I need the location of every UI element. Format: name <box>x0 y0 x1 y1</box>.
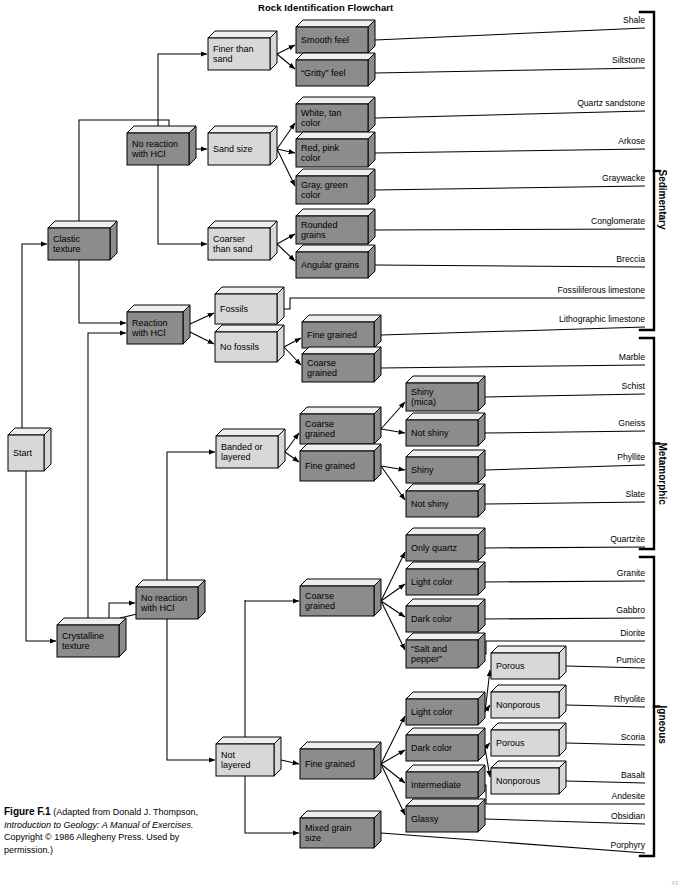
flow-box-light-color-ign-c[interactable] <box>406 562 485 595</box>
leader-line-siltstone <box>375 68 645 73</box>
figure-caption: Figure F.1 (Adapted from Donald J. Thomp… <box>4 806 252 856</box>
rock-label-shale: Shale <box>0 15 645 25</box>
flowchart-page: Rock Identification Flowchart StartClast… <box>0 0 681 887</box>
leader-line-fossiliferous-limestone <box>284 298 645 309</box>
leader-line-arkose <box>375 149 645 153</box>
leader-line-gneiss <box>485 431 645 433</box>
connector <box>381 429 405 433</box>
flowchart-canvas <box>0 0 681 887</box>
category-bracket-metamorphic <box>640 338 654 549</box>
flow-box-banded-layered[interactable] <box>216 429 285 468</box>
flow-box-start[interactable] <box>8 428 51 471</box>
flow-box-rounded-grains[interactable] <box>296 209 375 244</box>
caption-source-title: Introduction to Geology: A Manual of Exe… <box>4 820 193 830</box>
rock-label-arkose: Arkose <box>0 136 645 146</box>
rock-label-basalt: Basalt <box>0 770 645 780</box>
leader-line-quartz-sandstone <box>375 111 645 118</box>
leader-line-basalt <box>566 781 645 783</box>
rock-label-schist: Schist <box>0 381 645 391</box>
rock-label-siltstone: Siltstone <box>0 55 645 65</box>
rock-label-gneiss: Gneiss <box>0 418 645 428</box>
connector <box>381 466 405 470</box>
rock-label-pumice: Pumice <box>0 655 645 665</box>
figure-number: Figure F.1 <box>4 806 51 817</box>
connector <box>277 234 295 244</box>
rock-label-quartzite: Quartzite <box>0 534 645 544</box>
leader-line-scoria <box>566 743 645 745</box>
flow-box-fine-grained-met[interactable] <box>300 444 381 481</box>
leader-line-pumice <box>566 666 645 668</box>
rock-label-rhyolite: Rhyolite <box>0 694 645 704</box>
leader-line-lithographic-limestone <box>381 327 645 335</box>
rock-label-fossiliferous-limestone: Fossiliferous limestone <box>0 285 645 295</box>
rock-label-conglomerate: Conglomerate <box>0 216 645 226</box>
connector <box>281 760 299 764</box>
flow-box-only-quartz[interactable] <box>406 528 485 561</box>
leader-line-breccia <box>375 265 645 267</box>
page-number: 43 <box>671 880 678 886</box>
leader-line-phyllite <box>485 465 645 470</box>
connector <box>277 45 295 54</box>
connector <box>285 433 299 452</box>
connector <box>245 776 299 833</box>
caption-line-4: permission.) <box>4 845 53 855</box>
rock-label-breccia: Breccia <box>0 254 645 264</box>
leader-line-granite <box>485 581 645 582</box>
rock-label-slate: Slate <box>0 489 645 499</box>
connector <box>167 452 215 580</box>
category-label-metamorphic: Metamorphic <box>657 442 668 504</box>
rock-label-lithographic-limestone: Lithographic limestone <box>0 314 645 324</box>
caption-line-3: Copyright © 1986 Allegheny Press. Used b… <box>4 832 179 842</box>
rock-label-diorite: Diorite <box>0 628 645 638</box>
leader-line-conglomerate <box>375 229 645 230</box>
rock-label-gabbro: Gabbro <box>0 605 645 615</box>
leader-line-marble <box>381 365 645 368</box>
leader-line-shale <box>375 28 645 40</box>
leader-line-gabbro <box>485 618 645 619</box>
leader-line-slate <box>485 502 645 504</box>
connector <box>485 743 490 748</box>
rock-label-scoria: Scoria <box>0 732 645 742</box>
rock-label-marble: Marble <box>0 352 645 362</box>
connector <box>277 149 295 153</box>
connector <box>245 600 299 737</box>
category-label-sedimentary: Sedimentary <box>657 170 668 230</box>
rock-label-quartz-sandstone: Quartz sandstone <box>0 98 645 108</box>
rock-label-graywacke: Graywacke <box>0 173 645 183</box>
leader-line-schist <box>485 394 645 397</box>
flow-box-reaction[interactable] <box>127 305 190 344</box>
leader-line-rhyolite <box>566 705 645 707</box>
connector <box>284 338 301 347</box>
rock-label-phyllite: Phyllite <box>0 452 645 462</box>
caption-line-1: (Adapted from Donald J. Thompson, <box>53 807 198 817</box>
connector <box>190 332 214 344</box>
category-label-igneous: Igneous <box>657 705 668 743</box>
leader-line-quartzite <box>485 547 645 548</box>
leader-line-graywacke <box>375 186 645 190</box>
rock-label-andesite: Andesite <box>0 791 645 801</box>
rock-label-granite: Granite <box>0 568 645 578</box>
